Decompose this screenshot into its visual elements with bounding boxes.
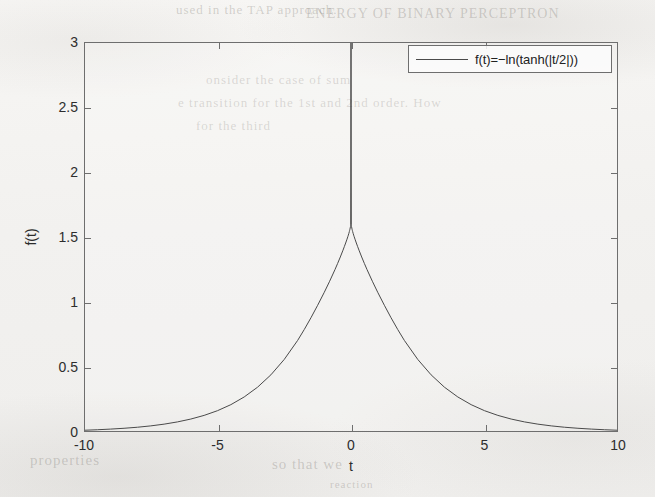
x-tick-label-3: 5 xyxy=(481,437,489,453)
y-tick-label-4: 2 xyxy=(0,164,78,180)
figure-page: used in the TAP approach.ENERGY OF BINAR… xyxy=(0,0,655,497)
y-axis-label: f(t) xyxy=(23,228,39,245)
x-axis-label: t xyxy=(349,458,353,474)
y-tick-label-0: 0 xyxy=(0,424,78,440)
y-tick-label-6: 3 xyxy=(0,34,78,50)
plot-curve-layer xyxy=(0,0,655,497)
y-tick-label-3: 1.5 xyxy=(0,229,78,245)
legend-box: f(t)=−ln(tanh(|t/2|)) xyxy=(408,45,612,73)
y-tick-label-1: 0.5 xyxy=(0,359,78,375)
legend-label: f(t)=−ln(tanh(|t/2|)) xyxy=(475,52,578,67)
matlab-figure: -10-50510 00.511.522.53 t f(t) f(t)=−ln(… xyxy=(0,0,655,497)
series-line-f-of-t xyxy=(84,42,618,430)
legend-line-sample xyxy=(416,59,468,60)
x-tick-label-4: 10 xyxy=(610,437,626,453)
y-tick-label-2: 1 xyxy=(0,294,78,310)
x-tick-label-1: -5 xyxy=(211,437,223,453)
y-tick-label-5: 2.5 xyxy=(0,99,78,115)
x-tick-label-2: 0 xyxy=(347,437,355,453)
